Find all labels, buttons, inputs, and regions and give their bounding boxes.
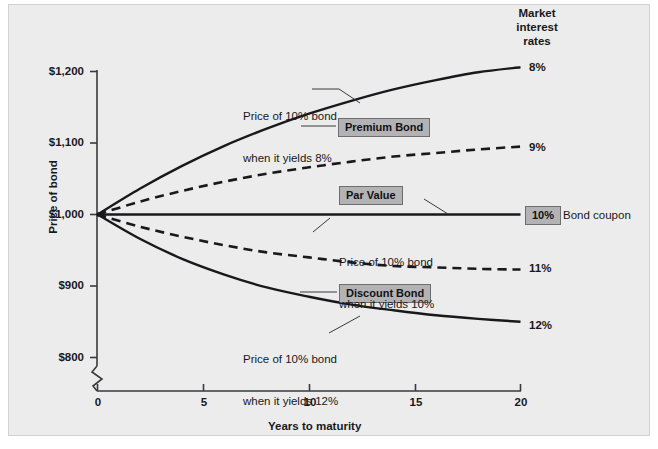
bond-coupon-label: Bond coupon <box>563 209 631 221</box>
y-tick-label-1100: $1,100 <box>32 136 84 148</box>
callout-yield-12: Price of 10% bond when it yields 12% <box>243 324 338 436</box>
bond-coupon-box: 10% <box>525 206 561 225</box>
callout-yield-8: Price of 10% bond when it yields 8% <box>243 81 337 193</box>
origin-convergence-marker <box>96 212 100 216</box>
rate-label-9: 9% <box>529 141 546 153</box>
x-tick-label-5: 5 <box>189 396 219 408</box>
callout-yield-10-line1: Price of 10% bond <box>339 255 434 269</box>
leader-line-callout-10 <box>313 218 330 232</box>
legend-title: Market interest rates <box>497 6 577 48</box>
x-tick-label-20: 20 <box>506 396 536 408</box>
callout-yield-12-line1: Price of 10% bond <box>243 352 338 366</box>
y-tick-label-800: $800 <box>32 351 84 363</box>
rate-label-12: 12% <box>529 319 552 331</box>
chart-page: Price of bond $1,200 $1,100 $1,000 $900 … <box>0 0 658 449</box>
x-tick-label-0: 0 <box>83 396 113 408</box>
y-tick-label-1200: $1,200 <box>32 65 84 77</box>
legend-title-line3: rates <box>497 34 577 48</box>
callout-yield-8-line2: when it yields 8% <box>243 151 337 165</box>
legend-title-line1: Market <box>497 6 577 20</box>
rate-label-8: 8% <box>529 61 546 73</box>
premium-bond-box: Premium Bond <box>338 118 430 137</box>
par-value-box: Par Value <box>339 186 403 205</box>
legend-title-line2: interest <box>497 20 577 34</box>
y-tick-label-900: $900 <box>32 279 84 291</box>
y-tick-label-1000: $1,000 <box>32 208 84 220</box>
callout-yield-8-line1: Price of 10% bond <box>243 109 337 123</box>
y-axis-title: Price of bond <box>47 152 59 242</box>
callout-yield-10: Price of 10% bond when it yields 10% <box>339 227 434 339</box>
callout-yield-12-line2: when it yields 12% <box>243 394 338 408</box>
curve-11pct <box>98 215 521 270</box>
leader-line-par-value <box>424 199 448 214</box>
rate-label-11: 11% <box>529 262 551 274</box>
callout-yield-10-line2: when it yields 10% <box>339 297 434 311</box>
x-tick-label-15: 15 <box>401 396 431 408</box>
